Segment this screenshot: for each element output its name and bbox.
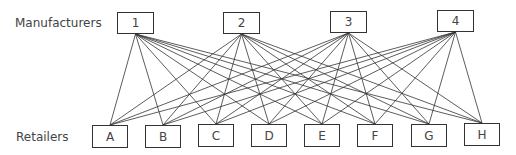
retailer-box-f: F xyxy=(357,124,393,147)
retailer-box-g: G xyxy=(411,124,447,147)
retailer-box-a: A xyxy=(92,125,128,148)
retailer-box-h: H xyxy=(464,123,500,146)
retailer-box-c: C xyxy=(198,124,234,147)
retailer-box-b: B xyxy=(145,125,181,148)
manufacturer-box-2: 2 xyxy=(223,12,260,34)
retailer-box-d: D xyxy=(251,124,287,147)
retailers-label: Retailers xyxy=(16,130,68,144)
retailer-box-e: E xyxy=(304,124,340,147)
manufacturers-label: Manufacturers xyxy=(15,16,102,30)
manufacturer-box-4: 4 xyxy=(437,10,474,32)
manufacturer-box-1: 1 xyxy=(117,12,154,34)
manufacturer-box-3: 3 xyxy=(330,11,367,33)
